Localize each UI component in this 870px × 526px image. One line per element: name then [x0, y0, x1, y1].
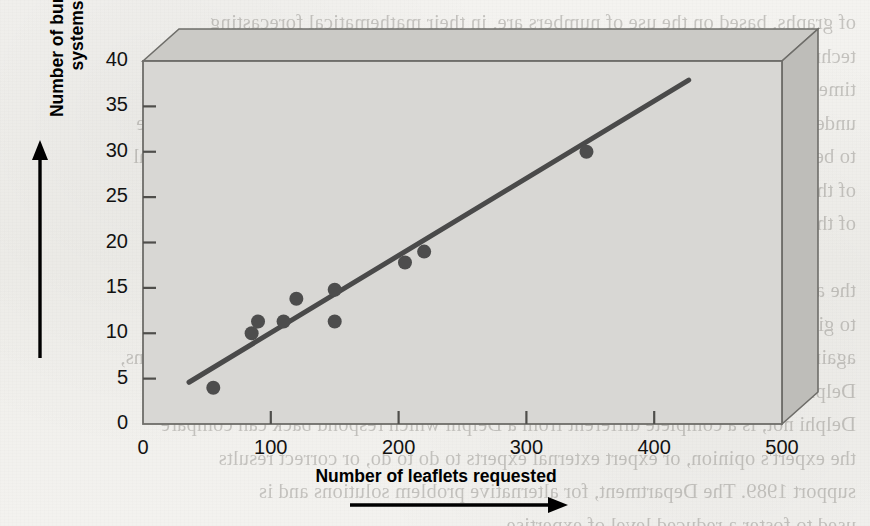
data-point: [289, 292, 303, 306]
y-axis-arrow-icon: [32, 140, 48, 358]
y-tick-label: 0: [60, 411, 128, 434]
data-point: [328, 283, 342, 297]
chart-frame-top-face: [143, 29, 818, 61]
plot-area: [143, 61, 782, 424]
x-axis-arrow-icon: [350, 497, 568, 513]
x-tick-label: 200: [359, 436, 439, 459]
x-axis-title: Number of leaflets requested: [246, 466, 626, 486]
scanned-page: of graphs, based on the use of numbers a…: [0, 0, 870, 526]
data-point: [245, 326, 259, 340]
x-tick-label: 400: [614, 436, 694, 459]
data-point: [206, 381, 220, 395]
data-point: [277, 314, 291, 328]
y-tick-label: 15: [60, 275, 128, 298]
y-tick-label: 5: [60, 366, 128, 389]
x-tick-label: 0: [103, 436, 183, 459]
x-tick-label: 100: [231, 436, 311, 459]
y-tick-label: 10: [60, 320, 128, 343]
x-tick-label: 300: [486, 436, 566, 459]
y-axis-title: Number of burglar alarm systems sold: [47, 0, 87, 130]
y-tick-label: 20: [60, 230, 128, 253]
data-point: [398, 255, 412, 269]
y-tick-label: 30: [60, 139, 128, 162]
data-point: [251, 314, 265, 328]
data-point: [417, 245, 431, 259]
chart-frame-right-face: [782, 29, 818, 424]
data-point: [579, 145, 593, 159]
y-tick-label: 25: [60, 184, 128, 207]
data-point: [328, 314, 342, 328]
x-tick-label: 500: [742, 436, 822, 459]
